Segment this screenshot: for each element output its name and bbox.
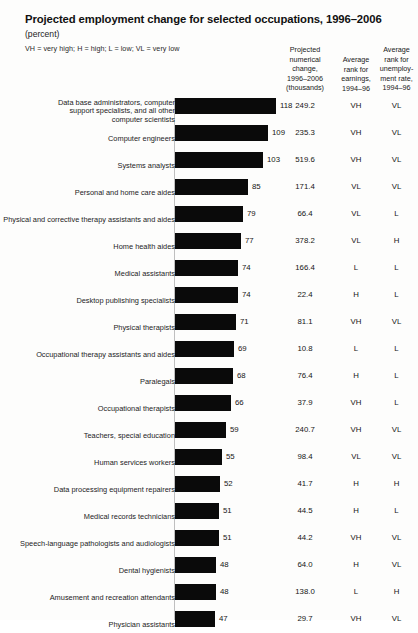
bar-value-label: 71 [240,314,249,330]
occupation-label: Systems analysts [3,161,175,170]
cell-numerical-change: 519.6 [283,152,327,168]
bar [175,260,238,276]
table-row: Systems analysts103519.6VHVL [0,152,418,179]
occupation-label: Desktop publishing specialists [3,296,175,305]
legend-note: VH = very high; H = high; L = low; VL = … [25,44,179,53]
cell-numerical-change: 138.0 [283,584,327,600]
occupation-label: Dental hygienists [3,566,175,575]
table-row: Occupational therapy assistants and aide… [0,341,418,368]
bar-value-label: 74 [242,287,251,303]
table-row: Physical therapists7181.1VHVL [0,314,418,341]
cell-unemployment-rank: VL [375,611,418,627]
occupation-label: Occupational therapy assistants and aide… [3,350,175,359]
cell-unemployment-rank: L [375,503,418,519]
bar [175,557,216,573]
table-row: Data processing equipment repairers5241.… [0,476,418,503]
cell-numerical-change: 64.0 [283,557,327,573]
cell-numerical-change: 44.5 [283,503,327,519]
cell-numerical-change: 10.8 [283,341,327,357]
cell-earnings-rank: L [334,341,378,357]
bar [175,233,241,249]
bar [175,476,220,492]
bar-value-label: 85 [252,179,261,195]
cell-earnings-rank: H [334,503,378,519]
cell-numerical-change: 171.4 [283,179,327,195]
cell-earnings-rank: VH [334,152,378,168]
cell-unemployment-rank: VL [375,422,418,438]
bar-value-label: 51 [223,530,232,546]
cell-unemployment-rank: VL [375,530,418,546]
cell-earnings-rank: H [334,287,378,303]
cell-unemployment-rank: VL [375,98,418,114]
cell-earnings-rank: L [334,584,378,600]
bar-value-label: 77 [245,233,254,249]
bar [175,98,276,114]
occupation-label: Computer engineers [3,134,175,143]
cell-earnings-rank: VH [334,395,378,411]
bar-value-label: 52 [224,476,233,492]
chart-subtitle: (percent) [25,29,59,39]
bar-container [175,125,268,141]
bar-container [175,206,243,222]
bar-container [175,557,216,573]
cell-numerical-change: 44.2 [283,530,327,546]
cell-unemployment-rank: L [375,260,418,276]
cell-unemployment-rank: VL [375,125,418,141]
cell-unemployment-rank: L [375,341,418,357]
cell-earnings-rank: H [334,368,378,384]
cell-numerical-change: 76.4 [283,368,327,384]
bar [175,611,215,627]
cell-numerical-change: 37.9 [283,395,327,411]
cell-numerical-change: 240.7 [283,422,327,438]
bar-container [175,503,219,519]
cell-numerical-change: 249.2 [283,98,327,114]
occupation-label: Physical and corrective therapy assistan… [3,215,175,224]
bar [175,449,222,465]
table-row: Personal and home care aides85171.4VLVL [0,179,418,206]
bar-value-label: 48 [220,584,229,600]
cell-numerical-change: 378.2 [283,233,327,249]
column-header-unemployment-rank: Average rank for unemploy- ment rate, 19… [375,45,418,93]
cell-earnings-rank: VH [334,422,378,438]
table-row: Desktop publishing specialists7422.4HL [0,287,418,314]
table-row: Computer engineers109235.3VHVL [0,125,418,152]
cell-earnings-rank: L [334,260,378,276]
bar [175,503,219,519]
bar-value-label: 69 [238,341,247,357]
bar [175,395,231,411]
cell-numerical-change: 98.4 [283,449,327,465]
bar-container [175,395,231,411]
cell-numerical-change: 235.3 [283,125,327,141]
cell-numerical-change: 166.4 [283,260,327,276]
table-row: Home health aides77378.2VLH [0,233,418,260]
bar [175,422,226,438]
bar [175,314,236,330]
cell-earnings-rank: VH [334,530,378,546]
bar-value-label: 48 [220,557,229,573]
table-row: Amusement and recreation attendants48138… [0,584,418,611]
table-row: Occupational therapists6637.9VHL [0,395,418,422]
bar-value-label: 68 [237,368,246,384]
bar-container [175,152,263,168]
bar-container [175,98,276,114]
bar-container [175,179,248,195]
occupation-label: Physician assistants [3,620,175,629]
bar-value-label: 66 [235,395,244,411]
bar [175,530,219,546]
bar-container [175,449,222,465]
bar-container [175,476,220,492]
cell-earnings-rank: VH [334,611,378,627]
bar [175,206,243,222]
table-row: Medical assistants74166.4LL [0,260,418,287]
cell-unemployment-rank: VL [375,314,418,330]
occupation-label: Home health aides [3,242,175,251]
table-row: Physical and corrective therapy assistan… [0,206,418,233]
bar-value-label: 103 [267,152,280,168]
cell-earnings-rank: H [334,557,378,573]
table-row: Speech-language pathologists and audiolo… [0,530,418,557]
table-row: Data base administrators, computer suppo… [0,98,418,125]
cell-earnings-rank: VL [334,206,378,222]
bar-value-label: 55 [226,449,235,465]
occupation-label: Personal and home care aides [3,188,175,197]
